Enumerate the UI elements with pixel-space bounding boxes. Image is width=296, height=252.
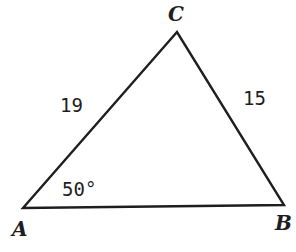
triangle-diagram: C A B 19 15 50° bbox=[0, 0, 296, 252]
side-label-ac: 19 bbox=[60, 94, 83, 116]
vertex-label-b: B bbox=[274, 211, 292, 235]
vertex-label-c: C bbox=[168, 2, 184, 26]
triangle-figure: C A B 19 15 50° bbox=[0, 0, 296, 252]
angle-label-a: 50° bbox=[62, 178, 96, 200]
side-label-bc: 15 bbox=[243, 87, 266, 109]
vertex-label-a: A bbox=[10, 217, 28, 241]
